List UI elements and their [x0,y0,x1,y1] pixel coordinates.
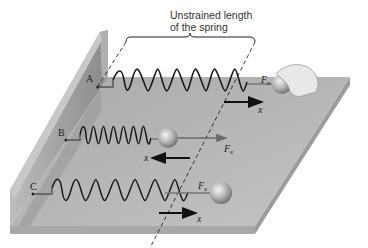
spring-a-label: A [86,73,94,84]
mass-b [158,128,178,148]
unstrained-length-caption: Unstrained length of the spring [170,9,252,33]
disp-label-c: x [196,213,202,224]
spring-diagram: A Fx x B Fx x C Fx x [0,0,368,248]
caption-line-2: of the spring [170,21,252,33]
spring-b-label: B [58,127,65,138]
disp-label-a: x [257,104,263,115]
disp-label-b: x [143,152,149,163]
spring-c-label: C [30,181,37,192]
mass-c [210,182,232,204]
caption-line-1: Unstrained length [170,9,252,21]
